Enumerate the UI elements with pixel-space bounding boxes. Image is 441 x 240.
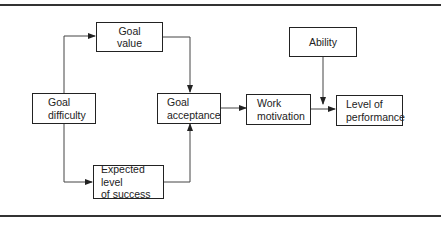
- node-label-line2: motivation: [257, 110, 310, 123]
- node-label-line1: Expected level: [101, 163, 163, 188]
- node-label-line1: Goal: [167, 96, 220, 109]
- node-expected-level-of-success: Expected level of success: [93, 165, 164, 199]
- node-label-line1: Work: [257, 97, 310, 110]
- node-label-line1: Goal: [118, 25, 140, 38]
- node-work-motivation: Work motivation: [246, 94, 311, 125]
- node-goal-acceptance: Goal acceptance: [157, 93, 221, 124]
- node-label-line1: Ability: [309, 36, 337, 49]
- node-label-line2: value: [117, 37, 142, 50]
- node-label-line2: acceptance: [167, 109, 220, 122]
- node-ability: Ability: [289, 27, 357, 57]
- edge-difficulty-to-expected: [64, 123, 92, 182]
- node-goal-value: Goal value: [96, 22, 163, 52]
- edge-expected-to-acceptance: [163, 124, 190, 182]
- edge-value-to-acceptance: [162, 37, 190, 92]
- node-label-line1: Goal: [48, 96, 95, 109]
- node-label-line1: Level of: [346, 98, 402, 111]
- node-label-line2: performance: [346, 111, 402, 124]
- node-label-line2: difficulty: [48, 109, 95, 122]
- node-level-of-performance: Level of performance: [336, 95, 403, 126]
- edge-difficulty-to-value: [64, 36, 95, 93]
- node-goal-difficulty: Goal difficulty: [32, 93, 96, 124]
- node-label-line2: of success: [101, 188, 163, 201]
